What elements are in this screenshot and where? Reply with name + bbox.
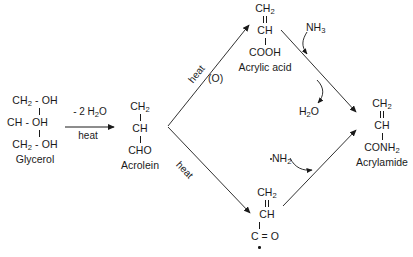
acrylic-acid-label: Acrylic acid bbox=[236, 61, 294, 74]
water-label: H2O bbox=[299, 105, 319, 121]
acrolein-label: Acrolein bbox=[116, 159, 164, 172]
dehydration-reagent-below: heat bbox=[63, 130, 113, 141]
acrylamide-mid: CH bbox=[353, 119, 411, 132]
acrylic-acid-mid: CH bbox=[236, 24, 294, 37]
species-acrylamide: CH2 CH CONH2 Acrylamide bbox=[353, 97, 411, 169]
acrolein-top: CH2 bbox=[116, 100, 164, 113]
acyl-radical-double-bond bbox=[240, 200, 294, 208]
species-acrylic-acid: CH2 CH COOH Acrylic acid bbox=[236, 2, 294, 74]
acrylamide-bottom: CONH2 bbox=[353, 141, 411, 154]
acrolein-bond-1 bbox=[116, 114, 164, 122]
glycerol-line-2: CH - OH bbox=[6, 116, 64, 129]
species-acyl-radical: CH2 CH C = O bbox=[240, 186, 294, 243]
glycerol-bond-2 bbox=[6, 130, 64, 138]
acrolein-mid: CH bbox=[116, 122, 164, 135]
glycerol-line-1: CH2 - OH bbox=[6, 94, 64, 107]
glycerol-line-3: CH2 - OH bbox=[6, 138, 64, 151]
acyl-radical-top: CH2 bbox=[240, 186, 294, 199]
curved-arrow-water-elimination bbox=[317, 80, 323, 103]
acrylamide-label: Acrylamide bbox=[353, 156, 411, 169]
dehydration-reagent-above: - 2 H2O bbox=[63, 106, 117, 119]
glycerol-bond-1 bbox=[6, 108, 64, 116]
ammonia-label: NH3 bbox=[306, 21, 325, 37]
acrolein-bond-2 bbox=[116, 136, 164, 144]
upper-path-oxidant-label: (O) bbox=[208, 72, 223, 84]
acrylamide-double-bond bbox=[353, 111, 411, 119]
acyl-radical-bottom: C = O bbox=[240, 230, 294, 243]
acyl-radical-bond-2 bbox=[240, 222, 294, 230]
glycerol-label: Glycerol bbox=[6, 153, 64, 166]
acrylamide-top: CH2 bbox=[353, 97, 411, 110]
acrylic-acid-bottom: COOH bbox=[236, 46, 294, 59]
acyl-radical-dot-icon bbox=[258, 246, 261, 249]
acrylamide-bond-2 bbox=[353, 133, 411, 141]
acrylic-acid-double-bond bbox=[236, 16, 294, 24]
reaction-scheme-diagram: CH2 - OH CH - OH CH2 - OH Glycerol - 2 H… bbox=[0, 0, 413, 257]
curved-arrow-amino-radical-addition bbox=[290, 158, 312, 170]
acyl-radical-mid: CH bbox=[240, 208, 294, 221]
acrylic-acid-top: CH2 bbox=[236, 2, 294, 15]
acrylic-acid-bond-2 bbox=[236, 38, 294, 46]
species-glycerol: CH2 - OH CH - OH CH2 - OH Glycerol bbox=[6, 94, 64, 166]
species-acrolein: CH2 CH CHO Acrolein bbox=[116, 100, 164, 172]
amino-radical-label: NH2 bbox=[270, 152, 291, 168]
acrolein-bottom: CHO bbox=[116, 144, 164, 157]
